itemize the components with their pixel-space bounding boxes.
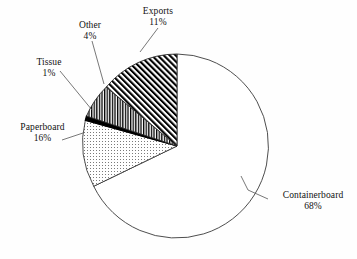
slice-label-tissue: Tissue 1% — [14, 57, 84, 78]
slice-label-containerboard-percent: 68% — [270, 201, 356, 212]
slice-label-tissue-percent: 1% — [14, 68, 84, 79]
slice-label-other: Other 4% — [55, 20, 125, 41]
slice-label-tissue-name: Tissue — [14, 57, 84, 68]
slice-label-other-percent: 4% — [55, 31, 125, 42]
slice-label-other-name: Other — [55, 20, 125, 31]
pie-chart: Exports 11% Other 4% Tissue 1% Paperboar… — [0, 0, 357, 259]
slice-label-exports: Exports 11% — [118, 6, 198, 27]
slice-label-containerboard-name: Containerboard — [270, 190, 356, 201]
slice-label-paperboard-name: Paperboard — [0, 122, 85, 133]
slice-label-exports-percent: 11% — [118, 17, 198, 28]
slice-label-paperboard: Paperboard 16% — [0, 122, 85, 143]
slice-label-containerboard: Containerboard 68% — [270, 190, 356, 211]
leader-line-exports — [140, 28, 158, 52]
slice-label-paperboard-percent: 16% — [0, 133, 85, 144]
slice-label-exports-name: Exports — [118, 6, 198, 17]
leader-line-other — [92, 41, 104, 84]
